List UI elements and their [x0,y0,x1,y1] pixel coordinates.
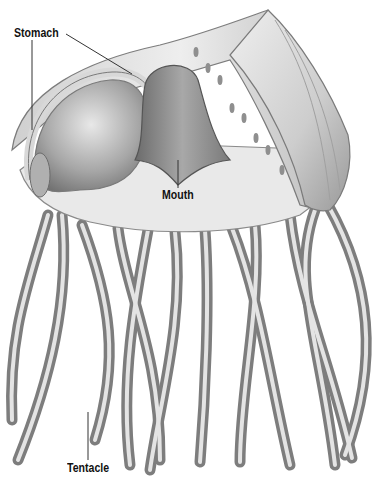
stomach-label: Stomach [14,26,59,40]
stomach-pouch [30,153,50,197]
tentacle-label: Tentacle [67,461,109,475]
mouth-label: Mouth [162,188,194,202]
jellyfish-illustration [0,0,388,478]
tentacles [12,205,367,470]
